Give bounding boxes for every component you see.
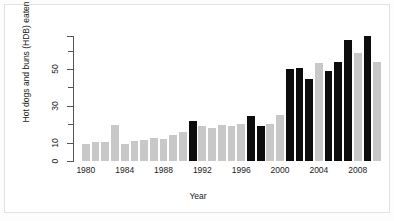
bar bbox=[189, 121, 197, 161]
bar bbox=[354, 53, 362, 161]
bar bbox=[315, 63, 323, 161]
bar bbox=[131, 141, 139, 161]
bar bbox=[82, 144, 90, 161]
bar bbox=[334, 62, 342, 161]
bar bbox=[169, 135, 177, 161]
bar bbox=[305, 79, 313, 161]
bar bbox=[101, 142, 109, 161]
bar bbox=[373, 62, 381, 161]
bar bbox=[237, 124, 245, 161]
bar bbox=[344, 40, 352, 161]
bar bbox=[257, 126, 265, 161]
bar bbox=[218, 125, 226, 161]
bar bbox=[92, 142, 100, 161]
figure-container: Hot dogs and buns (HDB) eaten Year 01030… bbox=[0, 0, 394, 221]
bar bbox=[266, 124, 274, 161]
bar bbox=[150, 138, 158, 161]
bar bbox=[198, 126, 206, 161]
bar bbox=[276, 115, 284, 161]
bar-series bbox=[5, 5, 391, 214]
bar bbox=[121, 144, 129, 161]
bar bbox=[247, 116, 255, 161]
bar bbox=[111, 125, 119, 161]
bar bbox=[364, 36, 372, 161]
bar bbox=[179, 132, 187, 161]
bar bbox=[160, 139, 168, 161]
bar bbox=[325, 71, 333, 161]
bar bbox=[208, 128, 216, 161]
plot-frame: Hot dogs and buns (HDB) eaten Year 01030… bbox=[4, 4, 390, 213]
bar bbox=[228, 126, 236, 161]
bar bbox=[286, 69, 294, 161]
bar bbox=[140, 140, 148, 161]
bar bbox=[296, 68, 304, 161]
